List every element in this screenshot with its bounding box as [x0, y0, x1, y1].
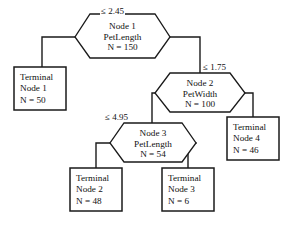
node-3-split-label: ≤ 4.95 — [104, 112, 129, 122]
node-1-count: N = 150 — [75, 42, 170, 53]
node-1-labels: Node 1 PetLength N = 150 — [75, 21, 170, 53]
terminal-4-labels: Terminal Node 4 N = 46 — [233, 122, 279, 156]
node-2-labels: Node 2 PetWidth N = 100 — [155, 78, 245, 110]
terminal-2-labels: Terminal Node 2 N = 48 — [76, 173, 122, 207]
edge-node2-to-terminal4 — [245, 93, 253, 117]
node-1-name: Node 1 — [75, 21, 170, 32]
node-3-labels: Node 3 PetLength N = 54 — [110, 128, 196, 160]
node-3-name: Node 3 — [110, 128, 196, 139]
node-1-variable: PetLength — [75, 32, 170, 43]
terminal-1-line3: N = 50 — [20, 95, 66, 106]
edge-node1-to-terminal1 — [42, 37, 75, 67]
node-3-count: N = 54 — [110, 149, 196, 160]
terminal-3-labels: Terminal Node 3 N = 6 — [168, 173, 214, 207]
terminal-3-line1: Terminal — [168, 173, 214, 184]
node-2-variable: PetWidth — [155, 89, 245, 100]
terminal-1-line1: Terminal — [20, 72, 66, 83]
terminal-4-line1: Terminal — [233, 122, 279, 133]
node-1-split-label: ≤ 2.45 — [100, 6, 125, 16]
terminal-4-line3: N = 46 — [233, 145, 279, 156]
terminal-2-line1: Terminal — [76, 173, 122, 184]
edge-node1-to-node2 — [170, 37, 200, 73]
terminal-1-line2: Node 1 — [20, 83, 66, 94]
terminal-1-labels: Terminal Node 1 N = 50 — [20, 72, 66, 106]
terminal-2-line3: N = 48 — [76, 196, 122, 207]
terminal-4-line2: Node 4 — [233, 133, 279, 144]
node-2-count: N = 100 — [155, 99, 245, 110]
node-3-variable: PetLength — [110, 139, 196, 150]
node-2-split-label: ≤ 1.75 — [202, 62, 227, 72]
terminal-3-line2: Node 3 — [168, 184, 214, 195]
terminal-2-line2: Node 2 — [76, 184, 122, 195]
node-2-name: Node 2 — [155, 78, 245, 89]
terminal-3-line3: N = 6 — [168, 196, 214, 207]
decision-tree-diagram: Node 1 PetLength N = 150 ≤ 2.45 Node 2 P… — [0, 0, 293, 225]
edge-node3-to-terminal2 — [96, 143, 110, 168]
